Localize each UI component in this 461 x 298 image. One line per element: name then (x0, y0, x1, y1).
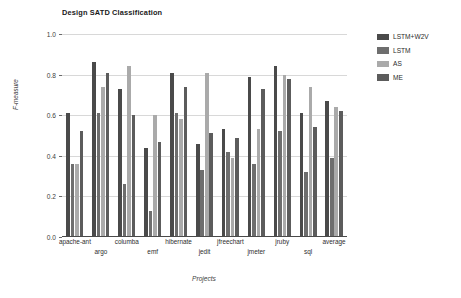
bar (252, 164, 256, 237)
x-axis-tick-label: emf (147, 248, 158, 255)
bar (313, 127, 317, 237)
bar (205, 73, 209, 237)
bar (325, 101, 329, 237)
legend-swatch-icon (377, 61, 389, 68)
bar (257, 129, 261, 237)
bar (101, 87, 105, 237)
y-axis-tick-labels: 0.00.20.40.60.81.0 (32, 34, 56, 237)
bar-group (114, 34, 140, 237)
bar (200, 170, 204, 237)
legend-item: LSTM (377, 44, 457, 58)
bar-group (166, 34, 192, 237)
bar (339, 111, 343, 237)
legend-label: ME (393, 74, 403, 81)
x-axis-tick-label: jfreechart (217, 238, 244, 245)
legend-label: LSTM (393, 47, 411, 54)
bar (184, 87, 188, 237)
legend-swatch-icon (377, 74, 389, 81)
x-axis-tick-label: jruby (275, 238, 289, 245)
legend-label: LSTM+W2V (393, 33, 429, 40)
chart-legend: LSTM+W2VLSTMASME (377, 30, 457, 84)
bar (209, 133, 213, 237)
bar (278, 131, 282, 237)
y-axis-tick-label: 0.4 (47, 152, 56, 159)
bar (304, 172, 308, 237)
x-axis-tick-label: average (322, 238, 345, 245)
x-axis-tick-label: sql (304, 248, 312, 255)
bar (330, 158, 334, 237)
y-axis-tick-label: 0.6 (47, 112, 56, 119)
bar-group (295, 34, 321, 237)
bar (66, 113, 70, 237)
y-axis-tick-label: 0.2 (47, 193, 56, 200)
x-axis-tick-label: apache-ant (59, 238, 91, 245)
x-axis-tick-label: jedit (199, 248, 211, 255)
bar-group (217, 34, 243, 237)
bar (231, 158, 235, 237)
bar-group (140, 34, 166, 237)
bar-group (62, 34, 88, 237)
legend-item: ME (377, 71, 457, 85)
bar-group (321, 34, 347, 237)
bar (179, 119, 183, 237)
x-axis-tick-label: jmeter (247, 248, 265, 255)
legend-label: AS (393, 60, 402, 67)
x-axis-tick-label: argo (94, 248, 107, 255)
y-axis-tick-label: 0.8 (47, 71, 56, 78)
chart-title: Design SATD Classification (62, 8, 162, 17)
bar (123, 184, 127, 237)
plot-area (62, 34, 347, 237)
bar (144, 148, 148, 237)
x-axis-tick-label: columba (115, 238, 139, 245)
bar (158, 142, 162, 237)
bar (92, 62, 96, 237)
legend-item: AS (377, 57, 457, 71)
bar (300, 113, 304, 237)
x-axis-label: Projects (192, 275, 216, 282)
bar (75, 164, 79, 237)
bar (283, 75, 287, 237)
bar (71, 164, 75, 237)
bar-group (269, 34, 295, 237)
x-axis-tick-labels: apache-antargocolumbaemfhibernatejeditjf… (62, 238, 347, 264)
bar (196, 144, 200, 237)
bar-group (192, 34, 218, 237)
bar (153, 115, 157, 237)
bar (287, 79, 291, 237)
y-axis-label: F-measure (12, 79, 19, 110)
bar (170, 73, 174, 237)
bar (222, 129, 226, 237)
bar (226, 152, 230, 237)
x-axis-tick-label: hibernate (165, 238, 192, 245)
bar (235, 138, 239, 237)
y-axis-tick-label: 0.0 (47, 234, 56, 241)
bar (149, 211, 153, 237)
bar (175, 113, 179, 237)
bar (248, 77, 252, 237)
bar (118, 89, 122, 237)
bar-group (243, 34, 269, 237)
bar-group (88, 34, 114, 237)
legend-swatch-icon (377, 47, 389, 54)
bar (106, 73, 110, 237)
bar (334, 107, 338, 237)
bar (261, 89, 265, 237)
legend-item: LSTM+W2V (377, 30, 457, 44)
chart-figure: Design SATD Classification F-measure 0.0… (0, 0, 461, 298)
bar (127, 66, 131, 237)
bar (132, 115, 136, 237)
bar (80, 131, 84, 237)
bar (274, 66, 278, 237)
y-axis-tick-label: 1.0 (47, 31, 56, 38)
legend-swatch-icon (377, 34, 389, 41)
bar (309, 87, 313, 237)
bars-layer (62, 34, 347, 237)
bar (97, 113, 101, 237)
x-axis-line (62, 236, 347, 237)
